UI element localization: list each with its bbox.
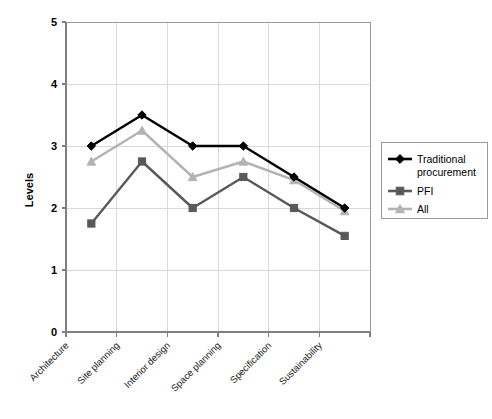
data-point-marker-square <box>341 232 348 239</box>
y-tick-label: 0 <box>51 326 57 338</box>
data-point-marker-square <box>189 204 196 211</box>
legend: TraditionalprocurementPFIAll <box>381 142 487 218</box>
line-chart: 012345 ArchitectureSite planningInterior… <box>0 0 492 419</box>
data-point-marker-square <box>240 173 247 180</box>
legend-label: PFI <box>417 185 433 197</box>
data-point-marker-square <box>138 158 145 165</box>
y-tick-label: 1 <box>51 264 57 276</box>
legend-label: Traditional <box>417 153 466 165</box>
data-point-marker-square <box>88 220 95 227</box>
y-tick-label: 5 <box>51 16 57 28</box>
data-point-marker-square <box>396 187 404 195</box>
y-tick-label: 3 <box>51 140 57 152</box>
y-tick-label: 4 <box>51 78 58 90</box>
y-tick-label: 2 <box>51 202 57 214</box>
y-axis-title: Levels <box>23 173 35 207</box>
legend-label-continued: procurement <box>417 166 476 178</box>
data-point-marker-square <box>290 204 297 211</box>
legend-label: All <box>417 203 429 215</box>
chart-container: 012345 ArchitectureSite planningInterior… <box>0 0 492 419</box>
